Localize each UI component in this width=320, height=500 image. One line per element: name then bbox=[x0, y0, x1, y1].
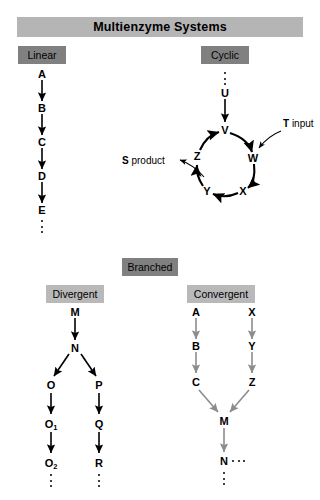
node-convergent-C: C bbox=[192, 377, 200, 388]
node-divergent-O2-sub: 2 bbox=[53, 462, 57, 471]
convergent-pathway-arrows bbox=[196, 318, 252, 452]
node-convergent-Y: Y bbox=[248, 341, 255, 352]
node-divergent-O: O bbox=[47, 380, 56, 391]
node-cyclic-Z: Z bbox=[194, 151, 201, 162]
cyclic-s-product-text: product bbox=[129, 155, 165, 166]
cyclic-pathway-arrows bbox=[180, 99, 281, 196]
divergent-left-continuation-ellipsis bbox=[50, 474, 52, 487]
node-convergent-Z: Z bbox=[249, 377, 256, 388]
divergent-pathway-arrows bbox=[51, 318, 99, 453]
node-divergent-M: M bbox=[70, 307, 79, 318]
cyclic-s-product-symbol: S bbox=[122, 155, 129, 166]
cyclic-t-input-label: T input bbox=[283, 119, 314, 129]
node-convergent-X: X bbox=[248, 307, 255, 318]
node-divergent-O1-sub: 1 bbox=[53, 423, 57, 432]
node-cyclic-W: W bbox=[248, 153, 258, 164]
node-cyclic-Y: Y bbox=[203, 186, 210, 197]
node-cyclic-X: X bbox=[239, 186, 246, 197]
node-linear-C: C bbox=[38, 137, 46, 148]
node-linear-E: E bbox=[38, 205, 45, 216]
node-cyclic-V: V bbox=[221, 125, 228, 136]
node-divergent-O1-base: O bbox=[45, 418, 54, 430]
node-divergent-O2-base: O bbox=[45, 457, 54, 469]
linear-continuation-ellipsis bbox=[41, 220, 43, 233]
divergent-right-continuation-ellipsis bbox=[98, 474, 100, 487]
node-convergent-B: B bbox=[192, 341, 200, 352]
node-linear-A: A bbox=[38, 69, 46, 80]
cyclic-t-input-text: input bbox=[289, 118, 313, 129]
node-divergent-N: N bbox=[71, 343, 79, 354]
node-divergent-R: R bbox=[95, 458, 103, 469]
convergent-horizontal-continuation-ellipsis bbox=[232, 460, 245, 462]
node-convergent-N: N bbox=[220, 456, 228, 467]
node-linear-B: B bbox=[38, 103, 46, 114]
node-cyclic-U: U bbox=[221, 88, 229, 99]
node-convergent-A: A bbox=[192, 307, 200, 318]
node-divergent-P: P bbox=[95, 380, 102, 391]
node-divergent-O1: O1 bbox=[45, 419, 58, 430]
cyclic-continuation-ellipsis bbox=[224, 72, 226, 85]
node-convergent-M: M bbox=[219, 416, 228, 427]
convergent-vertical-continuation-ellipsis bbox=[223, 472, 225, 485]
node-divergent-Q: Q bbox=[95, 419, 104, 430]
node-linear-D: D bbox=[38, 171, 46, 182]
node-divergent-O2: O2 bbox=[45, 458, 58, 469]
cyclic-s-product-label: S product bbox=[122, 156, 165, 166]
